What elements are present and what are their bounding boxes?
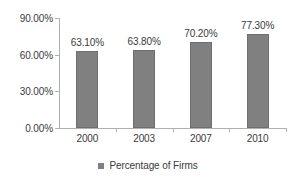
bar <box>247 34 269 128</box>
x-axis-tick-mark <box>116 128 117 132</box>
bar-chart: 0.00%30.00%60.00%90.00% Percentage of Fi… <box>0 0 296 183</box>
y-axis-tick-label: 90.00% <box>20 13 53 24</box>
bar-group: 77.30% <box>247 18 269 128</box>
y-axis-tick-label: 30.00% <box>20 86 53 97</box>
bar <box>190 42 212 128</box>
chart-legend: Percentage of Firms <box>0 160 296 171</box>
y-axis-tick-mark <box>55 18 59 19</box>
bar-group: 70.20% <box>190 18 212 128</box>
x-axis-tick-mark <box>173 128 174 132</box>
bar <box>133 50 155 128</box>
y-axis-tick-mark <box>55 128 59 129</box>
bar-value-label: 63.80% <box>127 36 160 47</box>
y-axis-tick-mark <box>55 91 59 92</box>
x-axis-category-label: 2007 <box>173 133 230 144</box>
x-axis-tick-mark <box>286 128 287 132</box>
y-axis-tick-label: 0.00% <box>25 123 53 134</box>
legend-swatch-icon <box>98 163 104 169</box>
legend-label: Percentage of Firms <box>109 160 197 171</box>
bar-value-label: 77.30% <box>241 20 274 31</box>
bar <box>76 51 98 128</box>
bar-group: 63.10% <box>76 18 98 128</box>
bar-group: 63.80% <box>133 18 155 128</box>
x-axis-category-label: 2000 <box>59 133 116 144</box>
y-axis-tick-label: 60.00% <box>20 49 53 60</box>
y-axis-tick-mark <box>55 55 59 56</box>
bar-value-label: 70.20% <box>184 28 217 39</box>
x-axis-category-label: 2003 <box>116 133 173 144</box>
bar-value-label: 63.10% <box>71 37 104 48</box>
x-axis-tick-mark <box>229 128 230 132</box>
x-axis-category-label: 2010 <box>229 133 286 144</box>
